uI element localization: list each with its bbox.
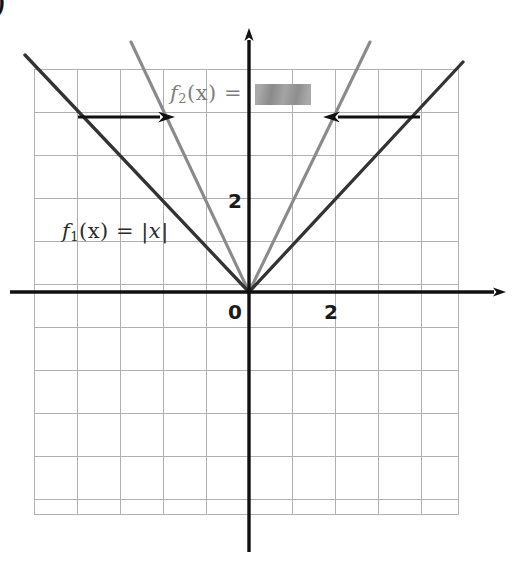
origin-label: 0	[228, 300, 242, 324]
function-label-f2-arg: (x) =	[187, 81, 242, 105]
function-label-f2-subscript: 2	[178, 91, 187, 106]
redacted-answer-box	[255, 84, 311, 105]
y-axis-tick-label-2: 2	[228, 189, 242, 213]
function-label-f1-expression: |x|	[141, 219, 169, 243]
function-label-f1-arg: (x) =	[79, 219, 141, 243]
curve-f1	[25, 55, 463, 292]
graph-page: )	[0, 0, 516, 562]
function-label-f1: f1(x) = |x|	[62, 219, 169, 244]
function-label-f2: f2(x) =	[170, 81, 242, 106]
function-label-f1-subscript: 1	[70, 229, 79, 244]
x-axis-tick-label-2: 2	[324, 300, 338, 324]
